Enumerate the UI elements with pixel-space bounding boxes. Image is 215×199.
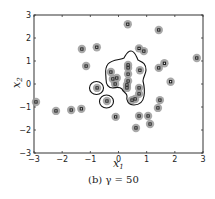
y-tick-label: 0 [26,80,31,89]
data-point-center [127,64,128,65]
data-point-center [138,115,139,116]
data-point-center [147,115,148,116]
data-point-center [71,109,72,110]
x-axis-label: x1 [113,157,124,171]
data-point-center [55,110,56,111]
data-point-center [157,107,158,108]
x-tick-label: 3 [200,155,205,164]
data-point-center [170,81,171,82]
data-point-center [158,29,159,30]
y-axis-label: x2 [10,77,24,88]
y-axis-label-group: x2 [10,77,24,88]
figure-caption: (b) γ = 50 [88,174,139,185]
data-point-center [196,57,197,58]
data-point-center [126,84,127,85]
data-point-center [127,67,128,68]
data-point-center [81,48,82,49]
data-point-center [143,51,144,52]
x-tick-label: −1 [84,155,96,164]
data-point-center [127,80,128,81]
y-tick-label: 2 [26,34,31,43]
data-point-center [106,100,107,101]
data-point-center [115,116,116,117]
data-point-center [131,100,132,101]
data-point-center [138,87,139,88]
data-point-center [158,67,159,68]
data-point-center [126,87,127,88]
data-point-center [164,63,165,64]
data-point-center [110,71,111,72]
x-tick-label: 1 [144,155,149,164]
data-point-center [127,74,128,75]
data-point-center [159,100,160,101]
data-point-center [138,93,139,94]
x-tick-label: −2 [56,155,68,164]
data-point-center [112,78,113,79]
x-tick-label: 2 [172,155,177,164]
data-point-center [86,65,87,66]
data-point-center [81,108,82,109]
y-tick-label: 1 [26,57,31,66]
data-point-center [135,98,136,99]
scatter-figure: −3−2−10123−3−2−10123 x1 x2 (b) γ = 50 [0,0,215,199]
y-tick-label: −1 [19,103,31,112]
data-point-center [35,101,36,102]
y-tick-label: −3 [19,149,31,158]
data-point-center [138,48,139,49]
y-tick-label: 3 [26,11,31,20]
data-point-center [96,47,97,48]
data-point-center [127,24,128,25]
data-point-center [96,87,97,88]
y-tick-label: −2 [19,126,31,135]
data-point-center [135,127,136,128]
data-point-center [115,83,116,84]
data-point-center [116,77,117,78]
data-point-center [139,70,140,71]
data-point-center [149,123,150,124]
